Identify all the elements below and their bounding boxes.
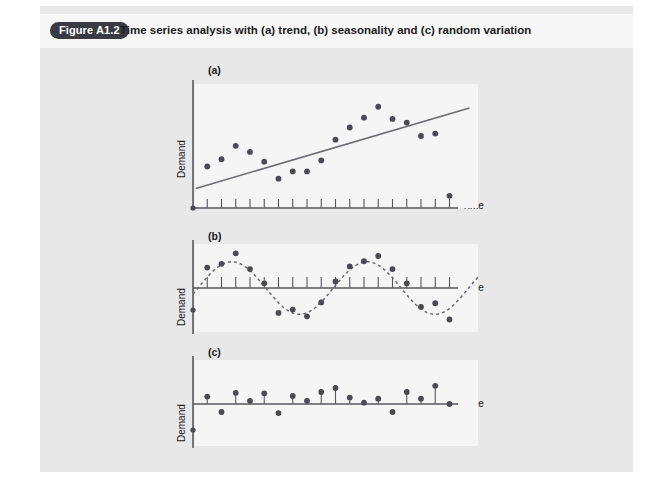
data-point — [432, 131, 438, 137]
data-point — [261, 159, 267, 165]
figure-caption-text: Time series analysis with (a) trend, (b)… — [120, 22, 531, 39]
data-point — [290, 169, 296, 175]
data-point — [204, 164, 210, 170]
data-point — [219, 261, 225, 267]
figure-number-badge: Figure A1.2 — [50, 22, 129, 39]
data-point — [204, 394, 210, 400]
data-point — [347, 125, 353, 131]
origin-marker — [190, 427, 195, 432]
data-point — [333, 137, 339, 143]
data-point — [375, 104, 381, 110]
origin-marker — [190, 205, 195, 210]
data-point — [404, 120, 410, 126]
data-point — [304, 169, 310, 175]
data-point — [390, 266, 396, 272]
data-point — [304, 313, 310, 319]
data-point — [418, 396, 424, 402]
data-point — [318, 300, 324, 306]
data-point — [447, 317, 453, 323]
data-point — [233, 390, 239, 396]
data-point — [361, 258, 367, 264]
figure-root: Figure A1.2 Time series analysis with (a… — [0, 0, 654, 497]
data-point — [375, 253, 381, 259]
data-point — [447, 193, 453, 199]
chart-c-plot — [150, 344, 520, 462]
data-point — [361, 400, 367, 406]
data-point — [404, 389, 410, 395]
data-point — [233, 250, 239, 256]
data-point — [447, 401, 453, 407]
chart-a-plot — [150, 60, 520, 230]
data-point — [347, 264, 353, 270]
data-point — [247, 149, 253, 155]
data-point — [276, 176, 282, 182]
data-point — [247, 398, 253, 404]
data-point — [390, 116, 396, 122]
origin-marker — [190, 307, 195, 312]
data-point — [333, 385, 339, 391]
data-point — [219, 156, 225, 162]
data-point — [261, 280, 267, 286]
data-point — [247, 266, 253, 272]
data-point — [333, 279, 339, 285]
data-point — [361, 115, 367, 121]
chart-a-trend: (a) Demand Time — [150, 60, 520, 230]
data-point — [233, 143, 239, 149]
data-point — [432, 300, 438, 306]
data-point — [347, 395, 353, 401]
data-point — [290, 307, 296, 313]
data-point — [418, 133, 424, 139]
data-point — [404, 280, 410, 286]
data-point — [276, 410, 282, 416]
chart-c-random-variation: (c) Demand Time — [150, 344, 520, 462]
data-point — [261, 390, 267, 396]
data-point — [432, 383, 438, 389]
data-point — [204, 265, 210, 271]
data-point — [418, 304, 424, 310]
data-point — [390, 409, 396, 415]
data-point — [318, 158, 324, 164]
data-point — [304, 398, 310, 404]
data-point — [290, 393, 296, 399]
chart-b-plot — [150, 228, 520, 348]
data-point — [375, 396, 381, 402]
data-point — [318, 389, 324, 395]
chart-b-seasonality: (b) Demand Time — [150, 228, 520, 348]
data-point — [219, 409, 225, 415]
data-point — [276, 310, 282, 316]
